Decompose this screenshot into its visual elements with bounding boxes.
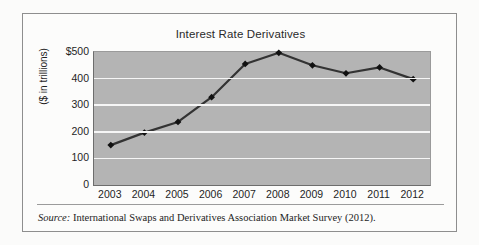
data-point-marker bbox=[343, 70, 350, 77]
data-point-marker bbox=[275, 49, 282, 56]
y-tick-label: 300 bbox=[45, 99, 89, 109]
gridline-300 bbox=[94, 104, 430, 106]
y-tick-label: 0 bbox=[45, 179, 89, 189]
source-text: International Swaps and Derivatives Asso… bbox=[73, 212, 376, 223]
gridline-200 bbox=[94, 131, 430, 133]
y-tick-label: $500 bbox=[45, 46, 89, 56]
data-series-line bbox=[94, 52, 430, 185]
gridline-400 bbox=[94, 78, 430, 80]
y-tick-label: 400 bbox=[45, 73, 89, 83]
chart-title: Interest Rate Derivatives bbox=[23, 28, 458, 40]
gridline-100 bbox=[94, 158, 430, 160]
y-tick-label: 100 bbox=[45, 152, 89, 162]
source-note: Source: International Swaps and Derivati… bbox=[38, 211, 448, 224]
source-divider bbox=[37, 204, 444, 205]
data-point-marker bbox=[376, 64, 383, 71]
plot-area bbox=[93, 51, 431, 186]
y-axis-tick-labels: $5004003002001000 bbox=[41, 51, 89, 184]
figure-container: Interest Rate Derivatives ($ in trillion… bbox=[0, 0, 479, 245]
figure-frame: Interest Rate Derivatives ($ in trillion… bbox=[22, 13, 457, 232]
x-tick-label: 2012 bbox=[392, 188, 432, 200]
x-axis-tick-labels: 2003200420052006200720082009201020112012 bbox=[93, 188, 429, 202]
data-point-marker bbox=[309, 62, 316, 69]
source-label: Source: bbox=[38, 212, 70, 223]
y-tick-label: 200 bbox=[45, 126, 89, 136]
data-point-marker bbox=[107, 142, 114, 149]
